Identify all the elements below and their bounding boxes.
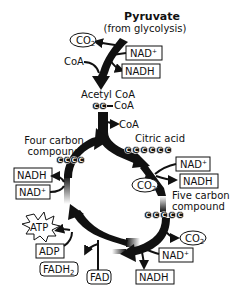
nadh-label-3: NADH — [139, 272, 169, 283]
adp-label: ADP — [39, 246, 60, 257]
carbon-atom-label: C — [94, 102, 99, 109]
fad-label: FAD — [90, 272, 110, 283]
carbon-atom-label: C — [65, 156, 70, 163]
pyruvate-subtitle: (from glycolysis) — [104, 23, 187, 34]
carbon-atom-label: C — [178, 211, 183, 218]
carbon-atom-label: C — [166, 146, 171, 153]
left-fade-segment — [64, 176, 70, 204]
nadh-label: NADH — [125, 66, 155, 77]
carbon-atom-label: C — [158, 146, 163, 153]
carbon-atom-label: C — [79, 156, 84, 163]
carbon-atom-label: C — [142, 146, 147, 153]
acetyl-coa-attached: CoA — [114, 100, 134, 111]
atp-label: ATP — [30, 222, 48, 233]
carbon-atom-label: C — [170, 211, 175, 218]
bottom-left-arc — [72, 210, 128, 246]
coa-release-arrow — [108, 122, 116, 124]
pyruvate-title: Pyruvate — [124, 10, 180, 23]
carbon-atom-label: C — [126, 146, 131, 153]
coa-in-label: CoA — [64, 56, 84, 67]
coa-release-label: CoA — [119, 119, 139, 130]
carbon-atom-label: C — [134, 146, 139, 153]
fadh2-out-arrow — [86, 244, 98, 252]
five-carbons: CCCCC — [144, 211, 183, 218]
coa-in-arrow — [84, 62, 99, 73]
carbon-atom-label: C — [58, 156, 63, 163]
nadh-out-arrow-2 — [156, 176, 174, 180]
carbon-atom-label: C — [154, 211, 159, 218]
acetyl-carbons: CC — [92, 102, 106, 109]
nad-in-line-4 — [50, 186, 64, 192]
citric-acid-label: Citric acid — [135, 133, 185, 144]
atp-out-arrow — [58, 229, 70, 230]
krebs-cycle-diagram: Pyruvate (from glycolysis) CO2 CoA NAD+ … — [0, 0, 230, 291]
carbon-atom-label: C — [162, 211, 167, 218]
nadh-out-arrow-4 — [54, 176, 64, 182]
adp-in-line — [64, 232, 72, 246]
four-carbon-label-1: Four carbon — [24, 135, 84, 146]
nadh-out-arrow-3 — [142, 252, 144, 266]
carbon-atom-label: C — [101, 102, 106, 109]
nadh-out-arrow — [110, 60, 121, 70]
five-carbon-label-1: Five carbon — [172, 190, 230, 201]
carbon-atom-label: C — [146, 211, 151, 218]
carbon-atom-label: C — [150, 146, 155, 153]
co2-out-arrow-3 — [166, 232, 176, 238]
carbon-atom-label: C — [72, 156, 77, 163]
nad-in-line-3 — [146, 250, 159, 254]
acetyl-coa-label: Acetyl CoA — [81, 89, 135, 100]
nadh-label-4: NADH — [17, 170, 47, 181]
nad-in-line-2 — [155, 164, 176, 174]
pyruvate-co2: CO2 — [70, 33, 115, 48]
nadh-label-2: NADH — [183, 176, 213, 187]
